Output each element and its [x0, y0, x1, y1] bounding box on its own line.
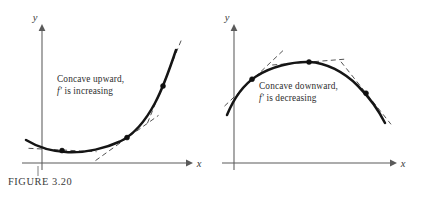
- figure-canvas: y x y x: [0, 0, 426, 197]
- left-x-axis-arrow: [186, 160, 193, 167]
- right-panel-annotation: Concave downward, f′ is decreasing: [259, 80, 338, 105]
- left-point-1: [60, 148, 65, 153]
- right-annotation-line2-rest: is decreasing: [264, 93, 317, 103]
- left-annotation-line1: Concave upward,: [57, 74, 124, 84]
- right-x-axis-label: x: [400, 158, 406, 169]
- left-annotation-line2: f′ is increasing: [57, 85, 124, 97]
- right-y-axis-label: y: [224, 12, 230, 23]
- right-annotation-line1: Concave downward,: [259, 81, 338, 91]
- right-annotation-line2: f′ is decreasing: [259, 92, 338, 104]
- left-tangent-lines: [29, 40, 182, 161]
- figure-caption: FIGURE 3.20: [8, 176, 72, 187]
- right-y-axis-arrow: [231, 24, 238, 31]
- left-annotation-line2-rest: is increasing: [62, 86, 113, 96]
- right-point-2: [307, 60, 312, 65]
- right-x-axis-arrow: [390, 160, 397, 167]
- figure-container: y x y x: [0, 0, 426, 197]
- left-point-3: [161, 84, 166, 89]
- left-y-axis-label: y: [32, 12, 38, 23]
- left-panel-annotation: Concave upward, f′ is increasing: [57, 73, 124, 98]
- left-x-axis-label: x: [196, 158, 202, 169]
- left-curve-concave-upward: [26, 50, 176, 152]
- left-y-axis-arrow: [39, 24, 46, 31]
- right-point-3: [364, 91, 369, 96]
- left-point-2: [125, 135, 130, 140]
- right-point-1: [250, 77, 255, 82]
